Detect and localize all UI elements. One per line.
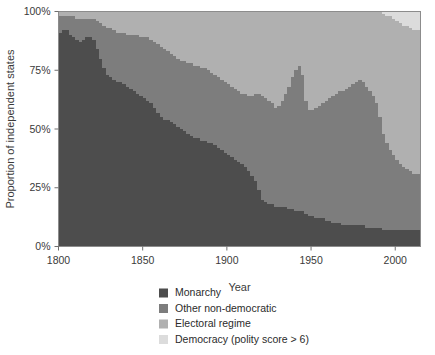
- legend-swatch: [159, 320, 168, 329]
- regime-type-stacked-area-chart: 0%25%50%75%100% 18001850190019502000 Yea…: [0, 0, 435, 355]
- y-tick-label: 25%: [29, 181, 50, 193]
- y-tick-label: 50%: [29, 123, 50, 135]
- y-axis-title: Proportion of independent states: [4, 49, 16, 209]
- y-tick-label: 0%: [35, 240, 50, 252]
- x-axis-title: Year: [228, 281, 251, 293]
- x-tick-label: 1850: [131, 254, 155, 266]
- legend-swatch: [159, 335, 168, 344]
- legend-label: Monarchy: [175, 286, 222, 298]
- stacked-areas: [59, 12, 421, 247]
- legend-label: Other non-democratic: [175, 302, 277, 314]
- x-tick-label: 1900: [215, 254, 239, 266]
- y-tick-label: 100%: [24, 5, 51, 17]
- y-tick-label: 75%: [29, 64, 50, 76]
- x-tick-label: 2000: [384, 254, 408, 266]
- legend-swatch: [159, 289, 168, 298]
- x-tick-label: 1800: [47, 254, 71, 266]
- legend-swatch: [159, 304, 168, 313]
- x-tick-label: 1950: [299, 254, 323, 266]
- legend-label: Democracy (polity score > 6): [175, 333, 309, 345]
- legend-label: Electoral regime: [175, 317, 251, 329]
